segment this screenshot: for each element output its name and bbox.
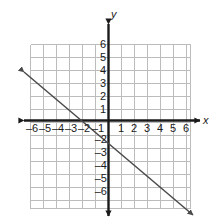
- y-tick-labels-positive: 6 5 4 3 2 1: [100, 38, 106, 115]
- y-tick-label: 2: [100, 90, 106, 102]
- x-tick-label: –3: [65, 122, 77, 134]
- y-tick-label: 3: [100, 77, 106, 89]
- x-tick-label: 6: [183, 122, 189, 134]
- x-tick-label: –6: [26, 122, 38, 134]
- graph-canvas: y x –6 –5 –4 –3 –2 –1 1 2 3 4 5 6 6 5 4 …: [0, 0, 215, 219]
- x-tick-label: 1: [118, 122, 124, 134]
- y-tick-label: –5: [95, 172, 107, 184]
- x-tick-label: 5: [170, 122, 176, 134]
- x-tick-labels-positive: 1 2 3 4 5 6: [118, 122, 189, 134]
- x-tick-label: 2: [131, 122, 137, 134]
- y-tick-label: –3: [95, 146, 107, 158]
- y-tick-label: 6: [100, 38, 106, 50]
- x-tick-label: –2: [78, 122, 90, 134]
- x-axis-label: x: [202, 114, 209, 126]
- y-tick-labels-negative: –2 –3 –4 –5 –6: [95, 133, 107, 197]
- y-tick-label: –6: [95, 185, 107, 197]
- x-tick-labels-negative: –6 –5 –4 –3 –2 –1: [26, 122, 104, 134]
- y-tick-label: 4: [100, 64, 106, 76]
- x-tick-label: –5: [39, 122, 51, 134]
- y-tick-label: –4: [95, 159, 107, 171]
- x-tick-label: –4: [52, 122, 64, 134]
- y-axis-label: y: [110, 8, 118, 20]
- x-tick-label: 3: [144, 122, 150, 134]
- x-tick-label: 4: [157, 122, 163, 134]
- y-tick-label: –2: [95, 133, 107, 145]
- coordinate-plane-figure: y x –6 –5 –4 –3 –2 –1 1 2 3 4 5 6 6 5 4 …: [0, 0, 215, 219]
- y-tick-label: 1: [100, 103, 106, 115]
- y-tick-label: 5: [100, 51, 106, 63]
